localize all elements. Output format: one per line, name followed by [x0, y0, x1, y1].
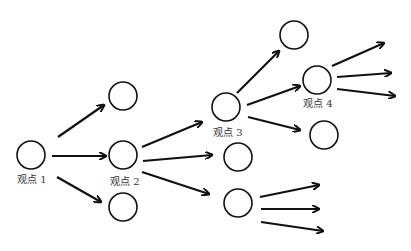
node-viewpoint-2: [109, 141, 137, 169]
node-b: [109, 193, 137, 221]
node-d: [224, 189, 252, 217]
node-c: [224, 143, 252, 171]
arrow-n3-e: [237, 51, 279, 93]
node-viewpoint-3: [212, 93, 240, 121]
arrow-d-out-3: [261, 222, 323, 231]
label-viewpoint-2: 观点 2: [110, 176, 140, 187]
arrow-n2-d: [142, 172, 209, 194]
viewpoint-diagram: 观点 1 观点 2 观点 3 观点 4: [0, 0, 411, 251]
arrow-n1-b: [57, 177, 101, 202]
node-a: [109, 82, 137, 110]
arrow-n4-out-3: [337, 89, 395, 96]
arrow-n3-n4: [247, 86, 300, 105]
diagram-svg: 观点 1 观点 2 观点 3 观点 4: [0, 0, 411, 251]
arrow-n3-f: [248, 117, 300, 130]
node-viewpoint-1: [17, 141, 45, 169]
arrow-n2-c: [143, 155, 212, 161]
node-f: [310, 121, 338, 149]
label-viewpoint-1: 观点 1: [17, 174, 47, 185]
node-e: [280, 21, 308, 49]
arrow-d-out-1: [260, 185, 319, 197]
arrow-n4-out-1: [332, 43, 384, 66]
arrow-n1-a: [58, 105, 104, 137]
label-viewpoint-4: 观点 4: [303, 98, 333, 109]
arrow-n2-n3: [142, 122, 202, 147]
arrow-n4-out-2: [337, 73, 391, 77]
label-viewpoint-3: 观点 3: [213, 127, 243, 138]
node-viewpoint-4: [303, 66, 331, 94]
